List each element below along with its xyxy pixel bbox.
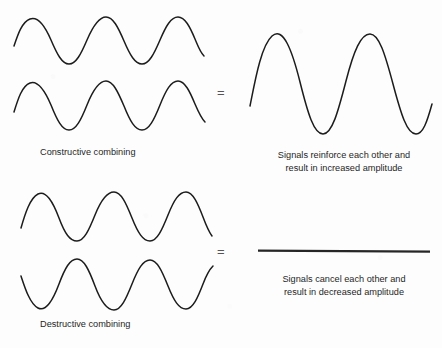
wave-path — [250, 34, 432, 134]
top-equals-operator: = — [217, 86, 225, 99]
caption-line: Constructive combining — [40, 146, 136, 159]
wave-combining-figure: = Constructive combining Signals reinfor… — [0, 0, 442, 348]
destructive-input-wave-a — [16, 186, 214, 246]
caption-line-2: result in decreased amplitude — [258, 286, 430, 299]
reinforce-caption: Signals reinforce each other and result … — [258, 149, 430, 174]
caption-line: Destructive combining — [40, 318, 130, 331]
constructive-input-wave-a — [8, 12, 208, 70]
constructive-input-wave-b — [8, 76, 210, 136]
caption-line-1: Signals cancel each other and — [258, 273, 430, 286]
destructive-output-flatline — [254, 243, 434, 259]
flatline-path — [258, 251, 430, 252]
bottom-equals-operator: = — [217, 245, 225, 258]
constructive-output-wave — [246, 26, 436, 142]
wave-path — [14, 81, 205, 130]
constructive-combining-label: Constructive combining — [40, 146, 136, 159]
caption-line-1: Signals reinforce each other and — [258, 149, 430, 162]
wave-path — [21, 192, 212, 241]
cancel-caption: Signals cancel each other and result in … — [258, 273, 430, 298]
wave-path — [21, 259, 213, 310]
destructive-combining-label: Destructive combining — [40, 318, 130, 331]
destructive-input-wave-b — [16, 252, 216, 314]
wave-path — [14, 17, 204, 64]
caption-line-2: result in increased amplitude — [258, 162, 430, 175]
